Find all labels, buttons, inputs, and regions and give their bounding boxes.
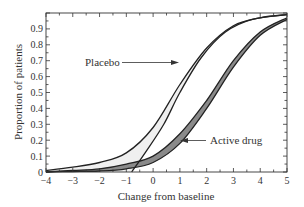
x-tick-label: 1 [177, 175, 182, 186]
x-tick-label: −2 [94, 175, 105, 186]
placebo-label: Placebo [85, 56, 120, 68]
y-tick-label: 0.2 [31, 135, 44, 146]
x-tick-label: 5 [285, 175, 290, 186]
y-tick-label: 0.9 [31, 23, 44, 34]
placebo-curve-2 [132, 15, 287, 172]
x-tick-label: 0 [151, 175, 156, 186]
x-tick-label: 3 [231, 175, 236, 186]
y-tick-label: 0.1 [31, 151, 44, 162]
cdf-chart: −4−3−2−101234500.10.20.30.40.50.60.70.80… [0, 0, 304, 207]
x-tick-label: 4 [258, 175, 263, 186]
y-tick-label: 0.4 [31, 103, 44, 114]
y-tick-label: 0.3 [31, 119, 44, 130]
x-tick-label: 2 [204, 175, 209, 186]
x-tick-label: −1 [121, 175, 132, 186]
y-tick-label: 0.5 [31, 87, 44, 98]
active-drug-label: Active drug [210, 134, 263, 146]
y-tick-label: 0.8 [31, 39, 44, 50]
placebo-arrowhead-icon [171, 60, 179, 65]
y-axis-label: Proportion of patients [12, 44, 24, 140]
y-tick-label: 0 [38, 167, 43, 178]
y-tick-label: 0.6 [31, 71, 44, 82]
x-axis-label: Change from baseline [118, 190, 215, 202]
active-annotation: Active drug [180, 134, 263, 146]
band-fills [46, 15, 287, 172]
placebo-annotation: Placebo [85, 56, 179, 68]
x-tick-label: −3 [67, 175, 78, 186]
ticks: −4−3−2−101234500.10.20.30.40.50.60.70.80… [31, 13, 290, 186]
y-tick-label: 0.7 [31, 55, 44, 66]
